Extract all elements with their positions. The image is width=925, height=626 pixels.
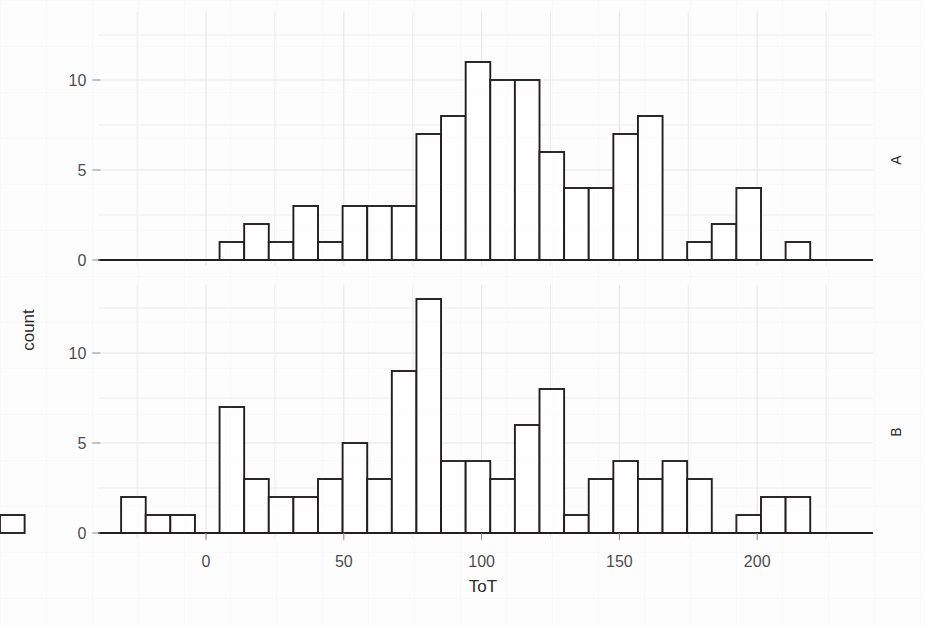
histogram-bar [0,515,25,533]
histogram-bar [638,116,663,260]
histogram-bar [736,188,761,260]
histogram-bar [466,461,491,533]
bars-panel-a [220,62,811,260]
histogram-bar [540,152,565,260]
histogram-facet-plot: 0510 0510 050100150200 count ToT A B [0,0,925,626]
y-axis-ticks-panel-b: 0510 [68,345,100,542]
histogram-bar [687,242,712,260]
y-tick-label: 5 [77,435,86,452]
histogram-bar [736,515,761,533]
histogram-bar [613,134,638,260]
histogram-bar [146,515,171,533]
x-axis-title: ToT [469,577,497,596]
histogram-bar [490,80,515,260]
histogram-bar [343,206,368,260]
x-tick-label: 50 [335,553,353,570]
histogram-bar [638,479,663,533]
histogram-bar [269,497,294,533]
histogram-bar [392,371,417,533]
x-tick-label: 150 [606,553,633,570]
histogram-bar [687,479,712,533]
histogram-bar [367,206,392,260]
histogram-bar [564,188,589,260]
histogram-bar [515,80,540,260]
histogram-bar [786,242,811,260]
histogram-bar [343,443,368,533]
histogram-bar [121,497,146,533]
y-tick-label: 0 [77,252,86,269]
y-axis-title: count [19,309,38,351]
y-tick-label: 5 [77,162,86,179]
chart-figure: 0510 0510 050100150200 count ToT A B [0,0,925,626]
histogram-bar [589,479,614,533]
y-tick-label: 10 [68,345,86,362]
x-tick-label: 200 [744,553,771,570]
x-tick-label: 100 [468,553,495,570]
histogram-bar [220,407,245,533]
y-axis-ticks-panel-a: 0510 [68,72,100,269]
histogram-bar [416,134,441,260]
x-tick-label: 0 [202,553,211,570]
histogram-bar [761,497,786,533]
histogram-bar [589,188,614,260]
histogram-bar [564,515,589,533]
histogram-bar [613,461,638,533]
histogram-bar [293,206,318,260]
histogram-bar [244,224,269,260]
histogram-bar [490,479,515,533]
histogram-bar [441,461,466,533]
histogram-bar [786,497,811,533]
histogram-bar [293,497,318,533]
histogram-bar [220,242,245,260]
y-tick-label: 10 [68,72,86,89]
histogram-bar [466,62,491,260]
histogram-bar [416,299,441,533]
histogram-bar [540,389,565,533]
histogram-bar [318,242,343,260]
histogram-bar [269,242,294,260]
y-tick-label: 0 [77,525,86,542]
histogram-bar [441,116,466,260]
histogram-bar [663,461,688,533]
histogram-bar [244,479,269,533]
histogram-bar [367,479,392,533]
histogram-bar [515,425,540,533]
histogram-bar [170,515,195,533]
histogram-bar [318,479,343,533]
x-axis-ticks: 050100150200 [202,533,771,570]
histogram-bar [712,224,737,260]
facet-strip-label-a: A [888,155,904,165]
facet-strip-label-b: B [888,427,904,436]
histogram-bar [392,206,417,260]
